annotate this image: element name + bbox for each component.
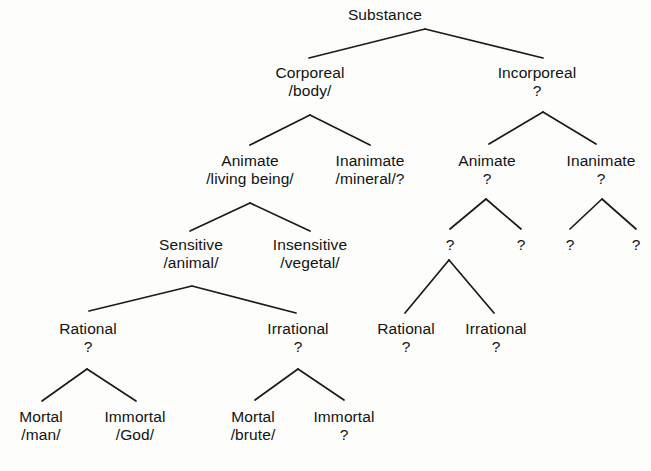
tree-node-corporeal[interactable]: Corporeal/body/ <box>276 64 345 101</box>
tree-node-mortal-brute[interactable]: Mortal/brute/ <box>231 408 276 445</box>
tree-edge-ialeft-irrational <box>449 260 494 313</box>
tree-node-rational[interactable]: Rational? <box>59 320 117 357</box>
tree-edge-ialeft-rational <box>405 260 449 313</box>
node-term-i-i-right: ? <box>632 236 641 254</box>
tree-edge-iinanimate-right <box>602 199 636 229</box>
node-term-insensitive: Insensitive <box>273 236 347 254</box>
tree-node-substance[interactable]: Substance <box>348 6 422 24</box>
tree-edge-incorporeal-animate <box>489 112 543 144</box>
node-gloss-i-irrational: ? <box>465 338 526 356</box>
node-term-corporeal: Corporeal <box>276 64 345 82</box>
node-gloss-mortal-man: /man/ <box>19 426 63 444</box>
tree-edge-substance-incorporeal <box>425 29 543 58</box>
tree-edge-corporeal-animate <box>250 115 310 145</box>
node-term-i-i-left: ? <box>566 236 575 254</box>
node-gloss-corporeal: /body/ <box>276 82 345 100</box>
node-gloss-i-animate: ? <box>458 170 516 188</box>
tree-node-c-animate[interactable]: Animate/living being/ <box>206 152 294 189</box>
tree-edge-iinanimate-left <box>570 199 602 229</box>
node-gloss-immortal-god: /God/ <box>104 426 165 444</box>
node-term-irrational: Irrational <box>267 320 328 338</box>
node-term-rational: Rational <box>59 320 117 338</box>
tree-edge-animate-insensitive <box>250 203 310 231</box>
node-term-i-a-left: ? <box>446 236 455 254</box>
node-gloss-mortal-brute: /brute/ <box>231 426 276 444</box>
tree-node-c-inanimate[interactable]: Inanimate/mineral/? <box>335 152 404 189</box>
tree-edge-animate-sensitive <box>190 203 250 231</box>
node-term-incorporeal: Incorporeal <box>498 64 577 82</box>
node-gloss-c-animate: /living being/ <box>206 170 294 188</box>
tree-edge-incorporeal-inanimate <box>543 112 596 144</box>
tree-node-i-animate[interactable]: Animate? <box>458 152 516 189</box>
tree-edge-substance-corporeal <box>309 29 425 58</box>
node-gloss-incorporeal: ? <box>498 82 577 100</box>
tree-node-irrational[interactable]: Irrational? <box>267 320 328 357</box>
node-term-substance: Substance <box>348 6 422 24</box>
node-term-mortal-man: Mortal <box>19 408 63 426</box>
tree-node-i-rational[interactable]: Rational? <box>377 320 435 357</box>
node-term-immortal-unknown: Immortal <box>313 408 374 426</box>
node-gloss-rational: ? <box>59 338 117 356</box>
tree-node-i-a-left[interactable]: ? <box>446 236 455 254</box>
node-gloss-immortal-unknown: ? <box>313 426 374 444</box>
tree-node-sensitive[interactable]: Sensitive/animal/ <box>159 236 223 273</box>
tree-node-incorporeal[interactable]: Incorporeal? <box>498 64 577 101</box>
node-term-mortal-brute: Mortal <box>231 408 276 426</box>
tree-node-mortal-man[interactable]: Mortal/man/ <box>19 408 63 445</box>
tree-node-immortal-unknown[interactable]: Immortal? <box>313 408 374 445</box>
substance-taxonomy-diagram: SubstanceCorporeal/body/Incorporeal?Anim… <box>0 0 651 471</box>
tree-node-immortal-god[interactable]: Immortal/God/ <box>104 408 165 445</box>
node-gloss-insensitive: /vegetal/ <box>273 254 347 272</box>
tree-edge-sensitive-rational <box>89 286 192 311</box>
node-term-c-inanimate: Inanimate <box>335 152 404 170</box>
node-gloss-c-inanimate: /mineral/? <box>335 170 404 188</box>
node-term-c-animate: Animate <box>206 152 294 170</box>
tree-edge-rational-mortal <box>42 369 87 401</box>
tree-node-insensitive[interactable]: Insensitive/vegetal/ <box>273 236 347 273</box>
node-gloss-irrational: ? <box>267 338 328 356</box>
node-term-i-irrational: Irrational <box>465 320 526 338</box>
node-gloss-i-rational: ? <box>377 338 435 356</box>
tree-node-i-a-right[interactable]: ? <box>517 236 526 254</box>
tree-edge-ianimate-left <box>450 199 486 229</box>
node-term-i-a-right: ? <box>517 236 526 254</box>
tree-edge-sensitive-irrational <box>192 286 296 313</box>
node-term-sensitive: Sensitive <box>159 236 223 254</box>
node-term-i-inanimate: Inanimate <box>567 152 636 170</box>
tree-edge-rational-immortal <box>87 369 136 401</box>
tree-node-i-irrational[interactable]: Irrational? <box>465 320 526 357</box>
tree-edge-corporeal-inanimate <box>310 115 370 145</box>
tree-edge-irrational-mortal <box>255 369 298 400</box>
tree-node-i-i-left[interactable]: ? <box>566 236 575 254</box>
tree-edge-ianimate-right <box>486 199 521 229</box>
node-gloss-sensitive: /animal/ <box>159 254 223 272</box>
tree-node-i-inanimate[interactable]: Inanimate? <box>567 152 636 189</box>
node-term-immortal-god: Immortal <box>104 408 165 426</box>
tree-node-i-i-right[interactable]: ? <box>632 236 641 254</box>
node-term-i-animate: Animate <box>458 152 516 170</box>
node-gloss-i-inanimate: ? <box>567 170 636 188</box>
tree-edge-irrational-immortal <box>298 369 344 400</box>
node-term-i-rational: Rational <box>377 320 435 338</box>
